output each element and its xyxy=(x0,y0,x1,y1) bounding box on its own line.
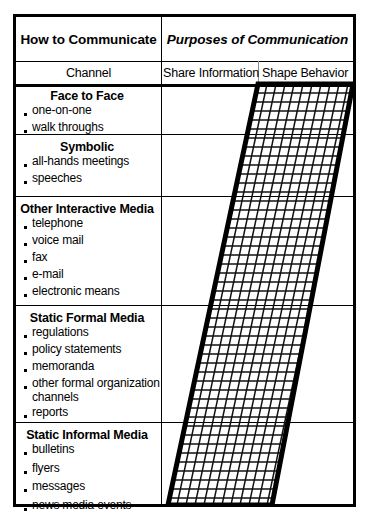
list-item: voice mail xyxy=(23,234,161,248)
header-purposes-of-communication: Purposes of Communication xyxy=(162,17,353,61)
list-item: fax xyxy=(23,251,161,265)
list-item: regulations xyxy=(23,326,161,340)
subheader-channel: Channel xyxy=(16,62,161,84)
group-title: Static Formal Media xyxy=(19,307,161,326)
figure-root: How to Communicate Purposes of Communica… xyxy=(0,0,370,522)
band-grid-fill xyxy=(156,84,353,504)
list-item: news media events xyxy=(23,499,161,513)
group-static-formal-media: Static Formal Media regulations policy s… xyxy=(19,307,161,423)
group-item-list: bulletins flyers messages news media eve… xyxy=(19,443,161,512)
group-static-informal-media: Static Informal Media bulletins flyers m… xyxy=(19,424,161,516)
list-item: policy statements xyxy=(23,343,161,357)
list-item: reports xyxy=(23,406,161,420)
group-item-list: telephone voice mail fax e-mail electron… xyxy=(19,217,161,299)
list-item: e-mail xyxy=(23,268,161,282)
group-item-list: all-hands meetings speeches xyxy=(19,155,161,186)
group-title: Static Informal Media xyxy=(19,424,161,443)
list-item: other formal organization channels xyxy=(23,377,161,404)
group-item-list: regulations policy statements memoranda … xyxy=(19,326,161,420)
list-item: bulletins xyxy=(23,443,161,457)
header-how-to-communicate: How to Communicate xyxy=(16,17,161,61)
row-separator-3 xyxy=(16,305,353,306)
main-column-divider xyxy=(161,17,162,504)
group-title: Symbolic xyxy=(19,136,161,155)
group-item-list: one-on-one walk throughs xyxy=(19,104,161,135)
subheader-shape-behavior: Shape Behavior xyxy=(262,62,354,84)
group-symbolic: Symbolic all-hands meetings speeches xyxy=(19,136,161,189)
list-item: memoranda xyxy=(23,360,161,374)
table-frame: How to Communicate Purposes of Communica… xyxy=(13,14,356,507)
list-item: walk throughs xyxy=(23,121,161,135)
group-title: Face to Face xyxy=(19,85,161,104)
list-item: speeches xyxy=(23,172,161,186)
band-outline xyxy=(168,84,353,504)
list-item: all-hands meetings xyxy=(23,155,161,169)
group-face-to-face: Face to Face one-on-one walk throughs xyxy=(19,85,161,138)
group-title: Other Interactive Media xyxy=(19,198,161,217)
subheader-share-information: Share Information xyxy=(163,62,259,84)
group-other-interactive-media: Other Interactive Media telephone voice … xyxy=(19,198,161,302)
list-item: one-on-one xyxy=(23,104,161,118)
list-item: messages xyxy=(23,480,161,494)
list-item: telephone xyxy=(23,217,161,231)
list-item: flyers xyxy=(23,462,161,476)
row-separator-2 xyxy=(16,196,353,197)
list-item: electronic means xyxy=(23,285,161,299)
